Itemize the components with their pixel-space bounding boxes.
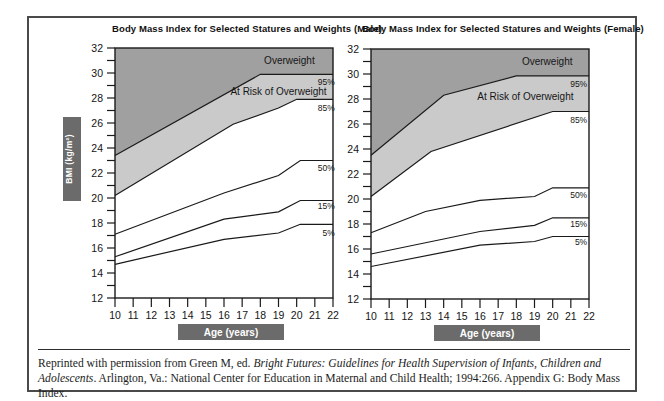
figure-border: Body Mass Index for Selected Statures an…: [27, 16, 637, 392]
percentile-line-5: [115, 224, 333, 264]
percentile-line-15: [115, 201, 333, 257]
y-tick-label: 32: [91, 42, 103, 54]
y-tick-label: 22: [91, 167, 103, 179]
male-chart-svg: 1214161820222426283032101112131415161718…: [60, 40, 352, 342]
y-tick-label: 24: [91, 142, 103, 154]
y-tick-label: 18: [91, 217, 103, 229]
figure-page: Body Mass Index for Selected Statures an…: [0, 0, 664, 401]
x-tick-label: 22: [583, 310, 595, 322]
y-tick-label: 30: [91, 67, 103, 79]
x-tick-label: 17: [492, 310, 504, 322]
x-tick-label: 19: [273, 309, 285, 321]
percentile-line-50: [371, 188, 589, 233]
x-tick-label: 18: [254, 309, 266, 321]
y-tick-label: 22: [347, 168, 359, 180]
female-chart-title: Body Mass Index for Selected Statures an…: [313, 23, 653, 34]
region-label-overweight: Overweight: [264, 55, 315, 66]
x-tick-label: 18: [510, 310, 522, 322]
x-tick-label: 10: [365, 310, 377, 322]
x-tick-label: 21: [565, 310, 577, 322]
y-tick-label: 16: [347, 243, 359, 255]
y-tick-label: 26: [91, 117, 103, 129]
region-label-overweight: Overweight: [522, 56, 573, 67]
x-tick-label: 16: [474, 310, 486, 322]
x-tick-label: 10: [109, 309, 121, 321]
x-tick-label: 13: [164, 309, 176, 321]
percentile-label-15: 15%: [570, 219, 587, 229]
y-tick-label: 28: [347, 93, 359, 105]
citation: Reprinted with permission from Green M, …: [38, 349, 630, 401]
y-tick-label: 16: [91, 242, 103, 254]
y-tick-label: 14: [347, 268, 359, 280]
female-chart-svg: 1214161820222426283032101112131415161718…: [316, 41, 608, 343]
region-label-at-risk-of-overweight: At Risk of Overweight: [230, 86, 326, 97]
percentile-label-85: 85%: [570, 115, 587, 125]
y-tick-label: 14: [91, 267, 103, 279]
x-tick-label: 14: [438, 310, 450, 322]
y-tick-label: 12: [91, 292, 103, 304]
region-label-at-risk-of-overweight: At Risk of Overweight: [477, 91, 573, 102]
percentile-label-95: 95%: [570, 79, 587, 89]
x-tick-label: 20: [547, 310, 559, 322]
x-tick-label: 11: [384, 310, 395, 322]
citation-prefix: Reprinted with permission from Green M, …: [38, 357, 253, 370]
x-tick-label: 13: [420, 310, 432, 322]
x-tick-label: 17: [236, 309, 248, 321]
x-tick-label: 12: [401, 310, 413, 322]
x-tick-label: 20: [291, 309, 303, 321]
y-tick-label: 28: [91, 92, 103, 104]
y-tick-label: 12: [347, 293, 359, 305]
x-tick-label: 15: [200, 309, 212, 321]
y-tick-label: 18: [347, 218, 359, 230]
x-axis-label: Age (years): [460, 328, 514, 339]
x-tick-label: 16: [218, 309, 230, 321]
x-axis-label: Age (years): [204, 327, 258, 338]
x-tick-label: 14: [182, 309, 194, 321]
y-tick-label: 20: [347, 193, 359, 205]
y-axis-label: BMI (kg/m²): [64, 134, 74, 184]
percentile-line-5: [371, 237, 589, 267]
y-tick-label: 32: [347, 43, 359, 55]
x-tick-label: 11: [128, 309, 139, 321]
percentile-label-5: 5%: [575, 237, 588, 247]
x-tick-label: 19: [529, 310, 541, 322]
y-tick-label: 20: [91, 192, 103, 204]
citation-suffix: . Arlington, Va.: National Center for Ed…: [38, 372, 620, 400]
percentile-label-50: 50%: [570, 190, 587, 200]
y-tick-label: 26: [347, 118, 359, 130]
y-tick-label: 30: [347, 68, 359, 80]
x-tick-label: 12: [145, 309, 157, 321]
y-tick-label: 24: [347, 143, 359, 155]
x-tick-label: 15: [456, 310, 468, 322]
